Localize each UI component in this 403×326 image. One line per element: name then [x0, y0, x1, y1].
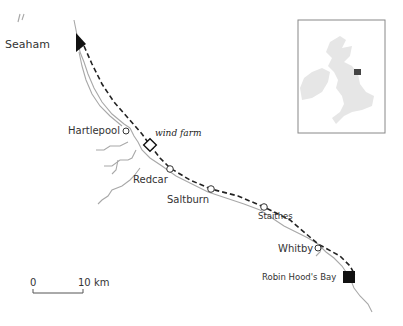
staithes-marker-icon	[261, 204, 268, 211]
inset-locator-map	[298, 20, 385, 133]
whitby-marker-icon	[315, 245, 321, 251]
scale-start-label: 0	[30, 278, 36, 288]
label-staithes: Staithes	[258, 212, 293, 221]
location-highlight-icon	[354, 69, 361, 75]
label-robin-hoods-bay: Robin Hood's Bay	[262, 273, 336, 282]
label-whitby: Whitby	[278, 244, 313, 254]
label-seaham: Seaham	[5, 39, 50, 50]
label-redcar: Redcar	[133, 175, 168, 185]
hartlepool-marker-icon	[123, 128, 129, 134]
saltburn-marker-icon	[208, 186, 215, 193]
map-canvas	[0, 0, 403, 326]
start-flag-icon	[76, 33, 86, 52]
label-hartlepool: Hartlepool	[68, 126, 120, 136]
redcar-marker-icon	[167, 166, 174, 173]
label-wind-farm: wind farm	[155, 129, 202, 138]
scale-end-label: 10 km	[78, 278, 109, 288]
scale-bar	[33, 289, 83, 293]
label-saltburn: Saltburn	[167, 195, 209, 205]
end-square-icon	[343, 271, 355, 283]
route-map: Seaham Hartlepool wind farm Redcar Saltb…	[0, 0, 403, 326]
wind-farm-diamond-icon	[144, 139, 157, 152]
